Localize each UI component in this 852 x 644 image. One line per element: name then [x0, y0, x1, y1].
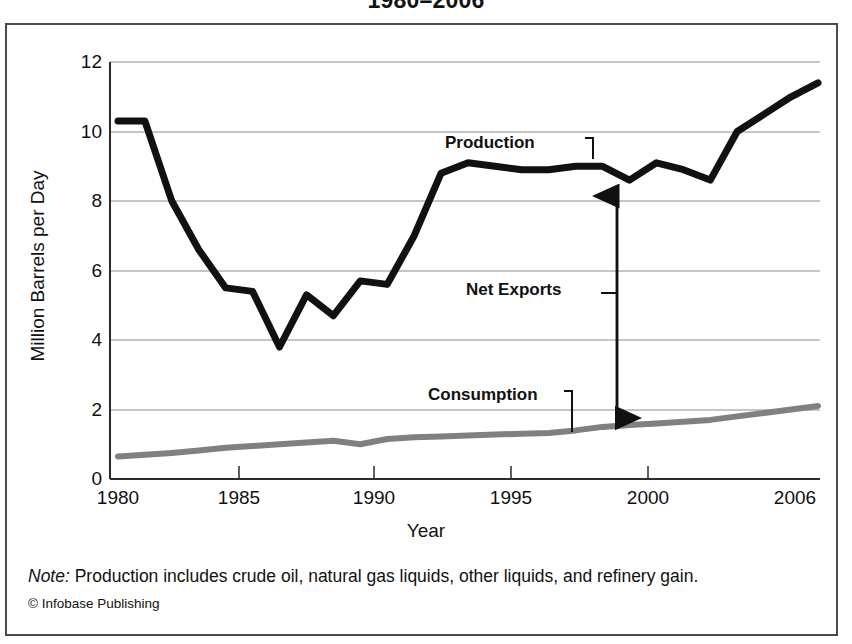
series-consumption [118, 406, 818, 456]
annotation-production: Production [445, 133, 535, 153]
footnote-note-text: Production includes crude oil, natural g… [70, 566, 698, 586]
plot-area: Million Barrels per Day 0 2 4 6 8 10 12 … [0, 0, 852, 644]
footnote-note-label: Note: [28, 566, 70, 586]
chart-page: 1980–2006 Million Barrels per Day 0 2 4 … [0, 0, 852, 644]
annotation-net-exports: Net Exports [466, 280, 561, 300]
footnote-note: Note: Production includes crude oil, nat… [28, 566, 698, 587]
annotation-consumption: Consumption [428, 385, 538, 405]
production-leader-line [585, 138, 593, 159]
series-production [118, 83, 818, 347]
footnote-credit: © Infobase Publishing [28, 596, 160, 611]
consumption-leader-line [564, 391, 572, 432]
x-tick-marks [239, 466, 648, 479]
gridlines [110, 62, 820, 410]
chart-svg [0, 0, 852, 644]
